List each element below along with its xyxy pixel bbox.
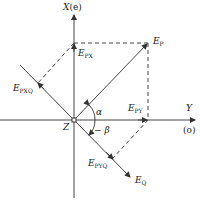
epy-main: E	[128, 103, 135, 113]
epxq-sub: PXQ	[20, 87, 33, 94]
origin-label: Z	[63, 123, 69, 132]
epyq-sub: PYQ	[95, 162, 108, 169]
epyq-main: E	[88, 158, 95, 168]
epyq-arrow	[106, 152, 113, 159]
x-axis-label: X(e)	[63, 3, 82, 12]
epy-label: EPY	[128, 104, 143, 114]
origin-marker	[72, 118, 76, 122]
epx-main: E	[78, 48, 85, 58]
eq-main: E	[135, 175, 142, 185]
beta-label: − β	[94, 126, 110, 135]
y-axis-suffix: (o)	[183, 126, 195, 135]
epxq-main: E	[13, 83, 20, 93]
eq-sub: Q	[142, 179, 147, 186]
epyq-label: EPYQ	[88, 159, 108, 169]
epy-to-q-dash	[113, 120, 148, 158]
ep-sub: P	[160, 40, 164, 47]
epx-to-q-dash	[38, 43, 74, 83]
epxq-label: EPXQ	[13, 84, 33, 94]
epxq-arrow	[38, 83, 44, 89]
vector-diagram	[0, 0, 201, 200]
ep-label: EP	[153, 37, 164, 47]
eq-label: EQ	[135, 176, 147, 186]
alpha-label: α	[96, 108, 102, 117]
epx-sub: PX	[85, 52, 93, 59]
epx-label: EPX	[78, 49, 93, 59]
ep-main: E	[153, 36, 160, 46]
y-axis-label: Y	[186, 104, 192, 113]
epy-sub: PY	[135, 107, 143, 114]
x-axis-suffix: (e)	[69, 2, 81, 12]
alpha-arc	[89, 105, 95, 120]
